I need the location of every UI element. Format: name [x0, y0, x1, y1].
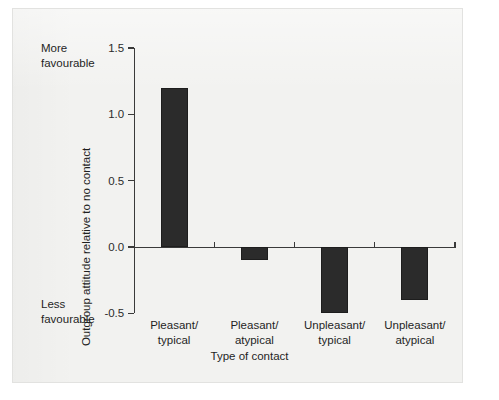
bar-3	[401, 247, 428, 300]
y-tick-0.5	[128, 180, 134, 181]
y-tick-0.0	[128, 246, 134, 247]
y-tick-label-1.5: 1.5	[84, 42, 124, 54]
annotation-more-favourable-line2: favourable	[41, 56, 95, 71]
y-tick-label-0.5: 0.5	[84, 175, 124, 187]
bar-0	[161, 88, 188, 247]
x-tick-2	[294, 242, 295, 248]
x-tick-label-3-line0: Unpleasant/	[360, 318, 470, 333]
y-tick-label-0.0: 0.0	[84, 241, 124, 253]
bar-chart: More favourable Less favourable Outgroup…	[0, 0, 499, 400]
y-tick--0.5	[128, 313, 134, 314]
x-tick-3	[374, 242, 375, 248]
y-axis-line	[134, 48, 135, 313]
y-tick-1.0	[128, 114, 134, 115]
y-tick-label--0.5: -0.5	[84, 307, 124, 319]
y-tick-1.5	[128, 47, 134, 48]
x-tick-label-3-line1: atypical	[360, 333, 470, 348]
x-axis-title: Type of contact	[0, 350, 499, 362]
x-tick-4	[454, 242, 455, 248]
bar-1	[241, 247, 268, 260]
y-tick-label-1.0: 1.0	[84, 108, 124, 120]
bar-2	[321, 247, 348, 313]
x-tick-label-3: Unpleasant/atypical	[360, 318, 470, 348]
x-tick-1	[214, 242, 215, 248]
